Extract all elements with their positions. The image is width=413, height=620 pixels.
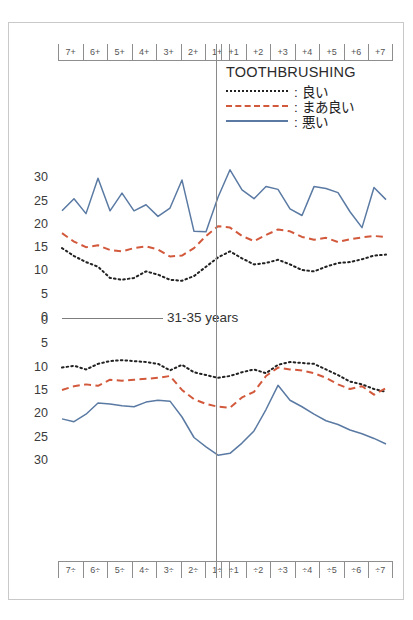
series-upper-dashed — [62, 226, 386, 256]
series-upper-dotted — [62, 248, 386, 281]
chart-canvas — [0, 0, 413, 620]
series-lower-solid — [62, 385, 386, 455]
series-lower-dashed — [62, 368, 386, 408]
series-upper-solid — [62, 170, 386, 232]
figure-root: 7+6+5+4+3+2+1+ +1+2+3+4+5+6+7 7÷6÷5÷4÷3÷… — [0, 0, 413, 620]
series-lower-dotted — [62, 360, 386, 392]
